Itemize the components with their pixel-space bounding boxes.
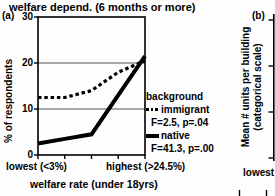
legend-item-label: native	[161, 129, 190, 142]
figure: welfare depend. (6 months or more) (a) (…	[0, 0, 275, 196]
xtick-label-lowest: lowest (<3%)	[6, 161, 67, 172]
panel-b-y-axis-label: Mean # units per building (categorical s…	[240, 27, 264, 148]
gridlines	[38, 63, 145, 109]
panel-b-ylabel-line2: (categorical scale)	[252, 27, 264, 148]
xtick-label-highest: highest (>24.5%)	[106, 161, 185, 172]
axes-and-ticks	[34, 17, 145, 159]
panel-b-ylabel-line1: Mean # units per building	[240, 27, 252, 148]
x-axis-title: welfare rate (under 18yrs)	[30, 178, 156, 190]
data-series-lines	[38, 56, 145, 143]
legend-item-label: immigrant	[161, 103, 209, 116]
solid-line-swatch	[146, 134, 159, 138]
dashed-line-swatch	[146, 108, 160, 112]
panel-b-xtick-label-lowest: lowest	[243, 167, 274, 178]
